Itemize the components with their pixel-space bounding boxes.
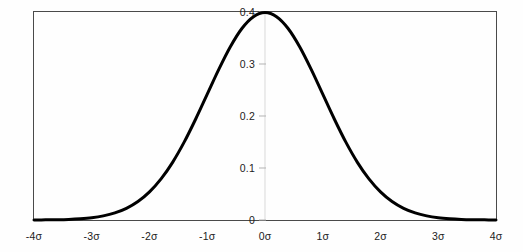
x-tick-label-7: 3σ xyxy=(432,229,445,243)
x-tick-label-1: -3σ xyxy=(84,229,100,243)
x-tick-label-3: -1σ xyxy=(199,229,215,243)
x-tick-label-4: 0σ xyxy=(259,229,272,243)
y-tick-label-0: 0 xyxy=(249,213,255,227)
y-tick-label-3: 0.3 xyxy=(240,57,255,71)
x-tick-label-2: -2σ xyxy=(141,229,157,243)
normal-distribution-chart: -4σ-3σ-2σ-1σ0σ1σ2σ3σ4σ 00.10.20.30.4 xyxy=(0,0,523,252)
x-tick-label-0: -4σ xyxy=(26,229,42,243)
x-tick-label-8: 4σ xyxy=(490,229,503,243)
x-tick-label-5: 1σ xyxy=(316,229,329,243)
y-tick-label-1: 0.1 xyxy=(240,161,255,175)
plot-area xyxy=(33,11,497,221)
y-tick-label-4: 0.4 xyxy=(240,5,255,19)
y-tick-label-2: 0.2 xyxy=(240,109,255,123)
x-tick-label-6: 2σ xyxy=(374,229,387,243)
